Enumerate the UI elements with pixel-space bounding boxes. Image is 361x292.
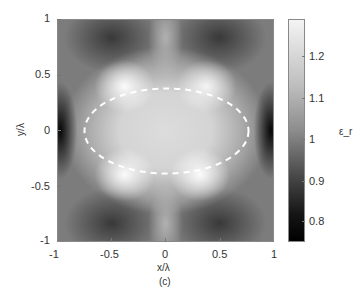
x-tick <box>111 238 112 242</box>
y-axis-label: y/λ <box>15 123 26 136</box>
y-tick-label: 0.5 <box>35 68 50 80</box>
y-tick-label: 1 <box>44 12 50 24</box>
x-tick-label: -0.5 <box>100 248 119 260</box>
colorbar-tick-label: 1.1 <box>309 92 324 104</box>
y-tick <box>57 130 61 131</box>
y-tick <box>57 186 61 187</box>
colorbar-tick <box>302 98 305 99</box>
x-tick <box>165 238 166 242</box>
y-tick-label: -0.5 <box>31 180 50 192</box>
colorbar-tick <box>302 221 305 222</box>
figure-caption: (c) <box>159 276 171 287</box>
colorbar <box>288 19 305 242</box>
colorbar-tick-label: 0.8 <box>309 215 324 227</box>
y-tick-label: 0 <box>44 124 50 136</box>
ellipse-overlay <box>58 20 274 242</box>
x-tick-label: 0 <box>162 248 168 260</box>
colorbar-tick-label: 0.9 <box>309 175 324 187</box>
y-tick <box>57 19 61 20</box>
x-tick-label: 0.5 <box>212 248 227 260</box>
y-tick-label: -1 <box>40 234 50 246</box>
heatmap-plot-area <box>57 19 274 242</box>
x-tick-label: 1 <box>271 248 277 260</box>
colorbar-tick-label: 1 <box>309 133 315 145</box>
y-tick <box>57 75 61 76</box>
colorbar-tick-label: 1.2 <box>309 50 324 62</box>
x-axis-label: x/λ <box>157 262 170 273</box>
x-tick <box>220 238 221 242</box>
x-tick-label: -1 <box>49 248 59 260</box>
colorbar-label: ε_r <box>339 126 352 137</box>
colorbar-tick <box>302 56 305 57</box>
colorbar-tick <box>302 139 305 140</box>
colorbar-tick <box>302 181 305 182</box>
